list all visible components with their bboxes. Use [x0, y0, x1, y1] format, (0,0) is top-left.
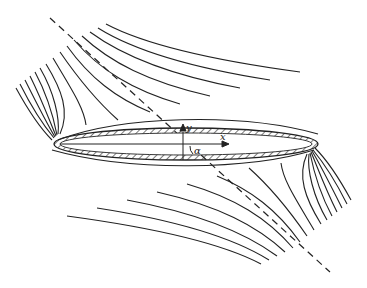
y-axis-label: y — [186, 122, 192, 133]
streamline-diagram — [0, 0, 367, 288]
angle-label: α — [194, 145, 201, 156]
x-axis-label: x — [220, 131, 226, 142]
